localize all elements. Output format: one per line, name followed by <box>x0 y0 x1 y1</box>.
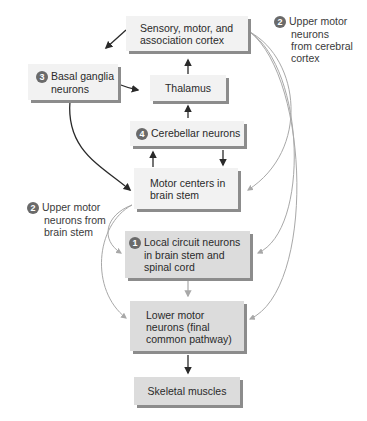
label-umn-cortex: 2Upper motor neurons from cerebral corte… <box>274 15 353 64</box>
node-local-circuit-line2: in brain stem and <box>129 249 240 261</box>
node-cerebellar: 4Cerebellar neurons <box>130 121 244 146</box>
node-basal-ganglia-line1: Basal ganglia <box>51 70 114 82</box>
badge-3-icon: 3 <box>36 71 48 83</box>
label-umn-cortex-line2: neurons <box>274 28 353 40</box>
node-skeletal-muscles-label: Skeletal muscles <box>134 385 240 397</box>
label-umn-brainstem-line1: Upper motor <box>42 201 100 213</box>
node-cerebellar-label: Cerebellar neurons <box>151 127 240 139</box>
node-cortex: Sensory, motor, and association cortex <box>126 16 248 51</box>
node-lower-motor-line2: neurons (final <box>146 321 232 333</box>
label-umn-brainstem-line2: neurons from <box>27 214 106 226</box>
node-motor-centers-line1: Motor centers in <box>150 177 225 189</box>
badge-1-icon: 1 <box>129 237 141 249</box>
node-local-circuit-line1: Local circuit neurons <box>144 236 240 248</box>
label-umn-cortex-line1: Upper motor <box>289 15 347 27</box>
label-umn-cortex-line3: from cerebral <box>274 40 353 52</box>
node-basal-ganglia: 3Basal ganglia neurons <box>28 64 118 100</box>
node-motor-centers: Motor centers in brain stem <box>134 168 238 209</box>
label-umn-brainstem-line3: brain stem <box>27 226 106 238</box>
node-basal-ganglia-line2: neurons <box>36 83 114 95</box>
label-umn-cortex-line4: cortex <box>274 52 353 64</box>
badge-4-icon: 4 <box>136 128 148 140</box>
node-thalamus-label: Thalamus <box>150 82 226 94</box>
node-motor-centers-line2: brain stem <box>150 189 225 201</box>
node-cortex-line2: association cortex <box>140 34 233 46</box>
node-local-circuit-line3: spinal cord <box>129 261 240 273</box>
node-lower-motor-line3: common pathway) <box>146 333 232 345</box>
node-local-circuit: 1Local circuit neurons in brain stem and… <box>125 231 250 278</box>
badge-2-icon: 2 <box>274 16 286 28</box>
node-skeletal-muscles: Skeletal muscles <box>134 377 240 405</box>
node-lower-motor: Lower motor neurons (final common pathwa… <box>130 301 244 351</box>
node-lower-motor-line1: Lower motor <box>146 309 232 321</box>
node-cortex-line1: Sensory, motor, and <box>140 22 233 34</box>
label-umn-brainstem: 2Upper motor neurons from brain stem <box>27 201 106 238</box>
node-thalamus: Thalamus <box>150 75 226 101</box>
badge-2-icon: 2 <box>27 202 39 214</box>
